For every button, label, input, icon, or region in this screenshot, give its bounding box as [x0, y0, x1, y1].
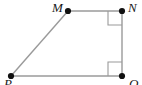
- right-angle-markers: [108, 11, 122, 76]
- vertex-label-q: Q: [129, 77, 138, 85]
- quadrilateral-diagram: [0, 0, 142, 85]
- vertex-label-p: P: [4, 77, 12, 85]
- geometry-figure: M N Q P: [0, 0, 142, 85]
- vertex-label-m: M: [52, 1, 63, 14]
- vertex-label-n: N: [128, 1, 137, 14]
- vertex-dot-n: [119, 8, 125, 14]
- quadrilateral-edges: [11, 11, 122, 76]
- vertex-dot-m: [65, 8, 71, 14]
- vertex-dot-q: [119, 73, 125, 79]
- edge-pm: [11, 11, 68, 76]
